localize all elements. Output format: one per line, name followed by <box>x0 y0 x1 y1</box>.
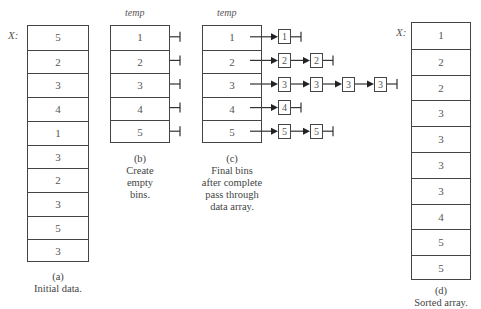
arrow-head-icon <box>303 81 310 88</box>
arrow-head-icon <box>367 81 374 88</box>
arrow-head-icon <box>303 128 310 135</box>
arrow-head-icon <box>271 33 278 40</box>
arrow-head-icon <box>271 57 278 64</box>
arrow-head-icon <box>335 81 342 88</box>
arrow-head-icon <box>271 104 278 111</box>
arrow-head-icon <box>303 57 310 64</box>
arrow-head-icon <box>271 81 278 88</box>
arrow-head-icon <box>271 128 278 135</box>
